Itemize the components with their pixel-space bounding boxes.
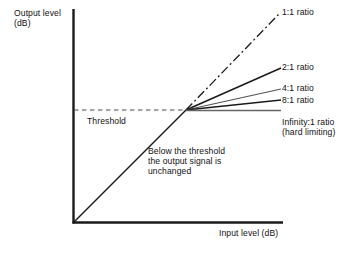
ratio-infinity-1-label-line1: Infinity:1 ratio	[282, 117, 335, 127]
below-threshold-note-line1: Below the threshold	[148, 146, 225, 156]
ratio-4-1-line	[186, 89, 281, 110]
ratio-4-1-label: 4:1 ratio	[282, 83, 314, 93]
below-threshold-note-line3: unchanged	[148, 166, 191, 176]
y-axis-label-line1: Output level	[14, 8, 61, 18]
ratio-infinity-1-label-line2: (hard limiting)	[282, 127, 335, 137]
compressor-ratio-figure: Output level(dB) Input level (dB) Thresh…	[0, 0, 339, 253]
y-axis-label-line2: (dB)	[14, 18, 31, 28]
x-axis-label: Input level (dB)	[219, 228, 278, 238]
y-axis-label: Output level(dB)	[14, 8, 61, 28]
ratio-8-1-line	[186, 100, 281, 110]
ratio-1-1-line	[186, 14, 279, 110]
ratio-2-1-line	[186, 68, 281, 110]
threshold-label: Threshold	[87, 116, 126, 126]
ratio-2-1-label: 2:1 ratio	[282, 62, 314, 72]
ratio-infinity-1-label: Infinity:1 ratio(hard limiting)	[282, 117, 335, 137]
below-threshold-note: Below the thresholdthe output signal isu…	[148, 146, 225, 177]
ratio-1-1-label: 1:1 ratio	[282, 7, 314, 17]
ratio-8-1-label: 8:1 ratio	[282, 95, 314, 105]
below-threshold-note-line2: the output signal is	[148, 156, 221, 166]
